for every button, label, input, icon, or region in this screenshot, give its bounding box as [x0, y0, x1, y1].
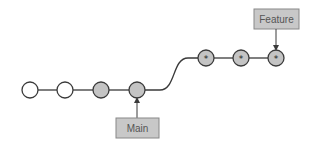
feature-label: Feature — [259, 14, 294, 25]
main-pointer: Main — [116, 100, 159, 138]
feature-commits: * * * — [198, 50, 284, 66]
branch-curve — [145, 58, 198, 90]
main-label: Main — [127, 123, 149, 134]
branch-diagram: * * * Main Feature — [0, 0, 318, 152]
commit-node[interactable] — [93, 82, 109, 98]
diagram-canvas: * * * Main Feature — [0, 0, 318, 152]
feature-pointer: Feature — [254, 9, 299, 48]
commit-node-main-head[interactable] — [129, 82, 145, 98]
commit-node[interactable] — [22, 82, 38, 98]
asterisk-icon: * — [239, 54, 244, 64]
commit-node[interactable] — [57, 82, 73, 98]
asterisk-icon: * — [204, 54, 209, 64]
asterisk-icon: * — [274, 54, 279, 64]
